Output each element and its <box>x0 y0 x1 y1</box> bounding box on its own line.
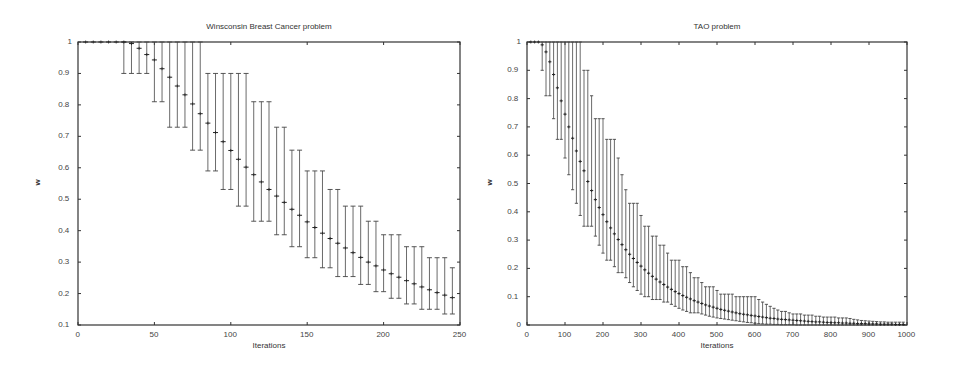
tao-chart: TAO problem Iterations w 010020030040050… <box>0 0 954 370</box>
x-tick-label: 700 <box>786 330 799 339</box>
y-tick-label: 0.8 <box>507 94 518 103</box>
x-tick-label: 0 <box>525 330 529 339</box>
y-tick-label: 0.7 <box>507 122 518 131</box>
x-tick-label: 400 <box>672 330 685 339</box>
y-tick-label: 0.6 <box>507 150 518 159</box>
y-tick-label: 0 <box>516 320 520 329</box>
x-tick-label: 500 <box>710 330 723 339</box>
error-bar-series <box>529 41 905 326</box>
x-tick-label: 300 <box>634 330 647 339</box>
x-tick-label: 1000 <box>897 330 915 339</box>
y-tick-label: 0.3 <box>507 235 518 244</box>
y-tick-label: 0.9 <box>507 65 518 74</box>
tao-x-axis-label: Iterations <box>701 341 734 350</box>
y-tick-label: 0.2 <box>507 263 518 272</box>
y-tick-label: 0.5 <box>507 179 518 188</box>
x-tick-label: 900 <box>862 330 875 339</box>
x-tick-label: 800 <box>824 330 837 339</box>
x-tick-label: 200 <box>596 330 609 339</box>
tao-y-axis-label: w <box>485 179 494 185</box>
x-tick-label: 100 <box>558 330 571 339</box>
y-tick-label: 0.4 <box>507 207 518 216</box>
tao-plot-area <box>0 0 954 370</box>
y-tick-label: 1 <box>516 37 520 46</box>
y-tick-label: 0.1 <box>507 292 518 301</box>
x-tick-label: 600 <box>748 330 761 339</box>
